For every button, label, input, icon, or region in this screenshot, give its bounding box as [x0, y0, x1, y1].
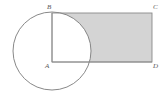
- shaded-region-group: [52, 13, 152, 62]
- vertex-label-c: C: [153, 4, 158, 11]
- vertex-label-b: B: [47, 4, 51, 11]
- geometry-canvas: [0, 0, 165, 94]
- geometry-figure: B C A D: [0, 0, 165, 94]
- vertex-label-d: D: [153, 63, 158, 70]
- shaded-region-fill: [52, 13, 152, 62]
- vertex-label-a: A: [45, 63, 49, 70]
